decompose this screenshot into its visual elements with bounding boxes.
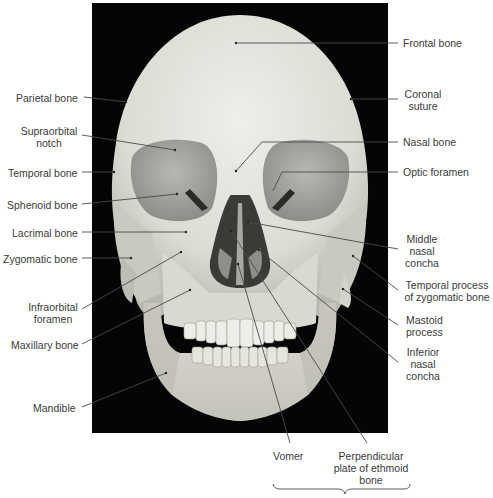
label-nasal-bone: Nasal bone xyxy=(403,136,456,148)
skull-anterior-diagram: Parietal bone Supraorbitalnotch Temporal… xyxy=(0,0,493,498)
label-mastoid-process: Mastoidprocess xyxy=(406,314,443,338)
label-sphenoid-bone: Sphenoid bone xyxy=(7,199,78,211)
skull-illustration xyxy=(92,3,388,433)
skull-photo xyxy=(92,3,388,433)
label-vomer: Vomer xyxy=(273,450,303,462)
label-zygomatic-bone: Zygomatic bone xyxy=(3,253,78,265)
label-inferior-nasal-concha: Inferiornasalconcha xyxy=(404,346,442,382)
label-frontal-bone: Frontal bone xyxy=(403,37,462,49)
label-parietal-bone: Parietal bone xyxy=(16,92,78,104)
label-temporal-bone: Temporal bone xyxy=(8,167,77,179)
label-coronal-suture: Coronalsuture xyxy=(402,88,444,112)
label-infraorbital-foramen: Infraorbitalforamen xyxy=(24,301,82,325)
label-temporal-process-zygomatic: Temporal processof zygomatic bone xyxy=(403,279,491,303)
label-mandible: Mandible xyxy=(33,402,76,414)
label-middle-nasal-concha: Middlenasalconcha xyxy=(403,233,441,269)
label-maxillary-bone: Maxillary bone xyxy=(11,339,79,351)
label-optic-foramen: Optic foramen xyxy=(403,166,469,178)
label-supraorbital-notch: Supraorbitalnotch xyxy=(19,125,79,149)
label-perpendicular-plate-ethmoid: Perpendicularplate of ethmoidbone xyxy=(333,450,409,486)
label-lacrimal-bone: Lacrimal bone xyxy=(12,227,78,239)
